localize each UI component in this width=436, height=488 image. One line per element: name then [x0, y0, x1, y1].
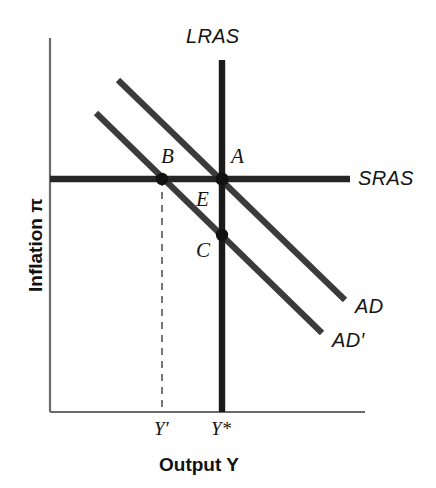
point-label-b: B — [161, 146, 174, 167]
x-axis-title: Output Y — [159, 455, 239, 474]
ad-curve — [118, 80, 345, 300]
ad-prime-label: AD′ — [332, 330, 364, 350]
y-axis-title: Inflation π — [26, 198, 45, 292]
point-label-e: E — [196, 189, 209, 210]
point-marker-c — [216, 229, 228, 241]
economics-diagram: LRAS SRAS AD AD′ A B E C Y′ Y* Inflation… — [0, 0, 436, 488]
point-marker-b — [156, 173, 168, 185]
x-tick-label-y-star: Y* — [211, 419, 231, 438]
point-marker-a — [215, 172, 228, 185]
ad-as-plot — [0, 0, 436, 488]
point-label-c: C — [196, 240, 210, 261]
sras-label: SRAS — [358, 168, 414, 188]
ad-label: AD — [355, 296, 383, 316]
lras-label: LRAS — [186, 26, 239, 46]
point-label-a: A — [231, 146, 244, 167]
ad-prime-curve — [96, 113, 322, 333]
x-tick-label-y-prime: Y′ — [154, 419, 169, 438]
